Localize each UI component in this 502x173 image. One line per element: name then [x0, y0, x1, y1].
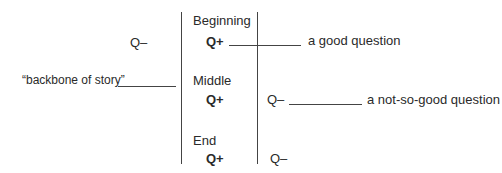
section-middle-q-plus: Q+ [206, 92, 224, 107]
good-question-line [229, 45, 301, 46]
left-divider-line [181, 12, 182, 164]
section-end-label: End [193, 133, 216, 148]
section-end-q-plus: Q+ [206, 151, 224, 166]
middle-q-minus: Q– [267, 92, 284, 107]
end-q-minus: Q– [270, 151, 287, 166]
not-so-good-question-label: a not-so-good question [367, 92, 500, 107]
section-beginning-q-plus: Q+ [206, 34, 224, 49]
not-so-good-question-line [289, 104, 362, 105]
backbone-underline [118, 86, 176, 87]
backbone-label: “backbone of story” [22, 73, 125, 88]
section-beginning-label: Beginning [193, 13, 251, 28]
good-question-label: a good question [308, 33, 401, 48]
right-divider-line [257, 12, 258, 164]
section-middle-label: Middle [193, 73, 231, 88]
left-q-minus: Q– [130, 35, 147, 50]
